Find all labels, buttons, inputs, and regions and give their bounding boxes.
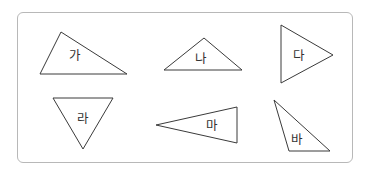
triangle-da: 다: [281, 25, 333, 83]
triangle-ba: 바: [274, 100, 330, 151]
triangle-ra-label: 라: [77, 111, 89, 126]
triangle-ma-shape: [156, 107, 237, 143]
triangle-ga-shape: [40, 32, 127, 74]
triangle-da-label: 다: [293, 48, 305, 63]
triangles-figure: 가 나 다 라 마 바: [0, 0, 368, 172]
triangle-ra: 라: [53, 98, 113, 149]
triangle-ma-label: 마: [206, 118, 218, 133]
triangle-ga: 가: [40, 32, 127, 74]
triangle-ma: 마: [156, 107, 237, 143]
triangle-na-label: 나: [195, 51, 207, 66]
triangle-ga-label: 가: [69, 48, 81, 63]
triangle-ba-label: 바: [291, 132, 303, 147]
triangle-na: 나: [164, 38, 242, 70]
triangle-da-shape: [281, 25, 333, 83]
